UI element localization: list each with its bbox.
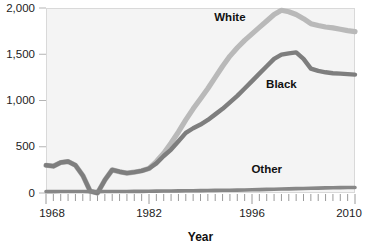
y-tick-label: 500	[16, 140, 35, 152]
x-tick-label: 1982	[136, 207, 162, 219]
x-axis-labels: 1968198219962010	[39, 207, 362, 219]
y-tick-label: 0	[29, 187, 35, 199]
x-tick-label: 2010	[336, 207, 362, 219]
chart-container: 05001,0001,5002,000 1968198219962010 Whi…	[0, 0, 365, 247]
y-tick-label: 2,000	[6, 2, 35, 14]
x-tick-label: 1996	[239, 207, 265, 219]
y-tick-label: 1,000	[6, 94, 35, 106]
line-chart: 05001,0001,5002,000 1968198219962010 Whi…	[0, 0, 365, 247]
x-axis-title: Year	[188, 230, 214, 244]
y-tick-label: 1,500	[6, 48, 35, 60]
y-axis-labels: 05001,0001,5002,000	[6, 2, 35, 199]
series-label-other: Other	[251, 163, 282, 175]
series-label-black: Black	[266, 78, 297, 90]
x-axis-minor-ticks	[46, 194, 355, 204]
series-label-white: White	[214, 11, 245, 23]
x-tick-label: 1968	[39, 207, 65, 219]
